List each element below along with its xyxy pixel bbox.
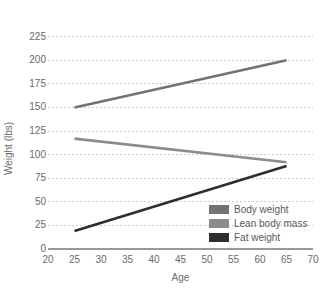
line-chart: Weight (lbs) 0255075100125150175200225 2… [0, 0, 335, 296]
series-line [75, 139, 287, 163]
legend-swatch-icon [209, 205, 229, 214]
legend-swatch-icon [209, 219, 229, 228]
legend-label: Fat weight [234, 232, 280, 243]
legend-item[interactable]: Lean body mass [209, 217, 307, 229]
series-line [75, 60, 287, 107]
legend-label: Lean body mass [234, 218, 307, 229]
legend-label: Body weight [234, 204, 288, 215]
gridlines [48, 37, 313, 226]
legend-swatch-icon [209, 233, 229, 242]
legend-item[interactable]: Fat weight [209, 231, 307, 243]
legend-item[interactable]: Body weight [209, 203, 307, 215]
x-axis-title-text: Age [172, 272, 190, 283]
chart-legend: Body weightLean body massFat weight [209, 203, 307, 243]
x-axis-title: Age [48, 272, 313, 283]
plot-area [0, 0, 335, 296]
